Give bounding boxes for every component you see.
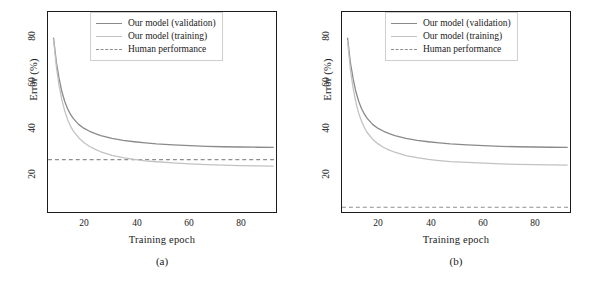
panel-a-ytick-80: 80	[27, 25, 37, 47]
legend-label-training: Our model (training)	[128, 30, 207, 43]
legend-entry-validation: Our model (validation)	[391, 17, 511, 30]
legend-line-dashed-icon	[96, 45, 122, 55]
legend-entry-training: Our model (training)	[96, 30, 216, 43]
panel-a: Error (%) 80 60 40 20 20 40 60 80 Traini…	[0, 0, 294, 284]
panel-b-caption: (b)	[341, 255, 571, 267]
legend-line-dashed-icon	[391, 45, 417, 55]
panel-b-ytick-80: 80	[321, 25, 331, 47]
panel-b-ytick-60: 60	[321, 71, 331, 93]
panel-b-legend: Our model (validation) Our model (traini…	[385, 12, 518, 61]
panel-b-xtick-20: 20	[365, 218, 391, 228]
legend-entry-validation: Our model (validation)	[96, 17, 216, 30]
panel-a-xtick-20: 20	[71, 218, 97, 228]
legend-entry-human: Human performance	[96, 43, 216, 56]
legend-label-human: Human performance	[423, 43, 501, 56]
legend-line-solid-dark-icon	[96, 19, 122, 29]
legend-entry-training: Our model (training)	[391, 30, 511, 43]
panel-a-xtick-40: 40	[124, 218, 150, 228]
panel-b-ytick-20: 20	[321, 163, 331, 185]
legend-line-solid-dark-icon	[391, 19, 417, 29]
panel-b-ytick-40: 40	[321, 117, 331, 139]
panel-a-xtick-80: 80	[228, 218, 254, 228]
panel-a-caption: (a)	[47, 255, 277, 267]
panel-b-xtick-60: 60	[470, 218, 496, 228]
panel-b-xtick-40: 40	[418, 218, 444, 228]
legend-entry-human: Human performance	[391, 43, 511, 56]
panel-a-ytick-40: 40	[27, 117, 37, 139]
panel-a-ytick-60: 60	[27, 71, 37, 93]
panel-a-legend: Our model (validation) Our model (traini…	[90, 12, 223, 61]
legend-label-human: Human performance	[128, 43, 206, 56]
panel-a-x-axis-label: Training epoch	[47, 234, 277, 245]
panel-b-xtick-80: 80	[522, 218, 548, 228]
panel-b: Error (%) 80 60 40 20 20 40 60 80 Traini…	[295, 0, 589, 284]
legend-line-solid-light-icon	[96, 32, 122, 42]
panel-a-xtick-60: 60	[176, 218, 202, 228]
legend-line-solid-light-icon	[391, 32, 417, 42]
figure-two-panel-error-curves: Error (%) 80 60 40 20 20 40 60 80 Traini…	[0, 0, 589, 284]
legend-label-training: Our model (training)	[423, 30, 502, 43]
panel-a-ytick-20: 20	[27, 163, 37, 185]
legend-label-validation: Our model (validation)	[128, 17, 216, 30]
legend-label-validation: Our model (validation)	[423, 17, 511, 30]
panel-b-x-axis-label: Training epoch	[341, 234, 571, 245]
